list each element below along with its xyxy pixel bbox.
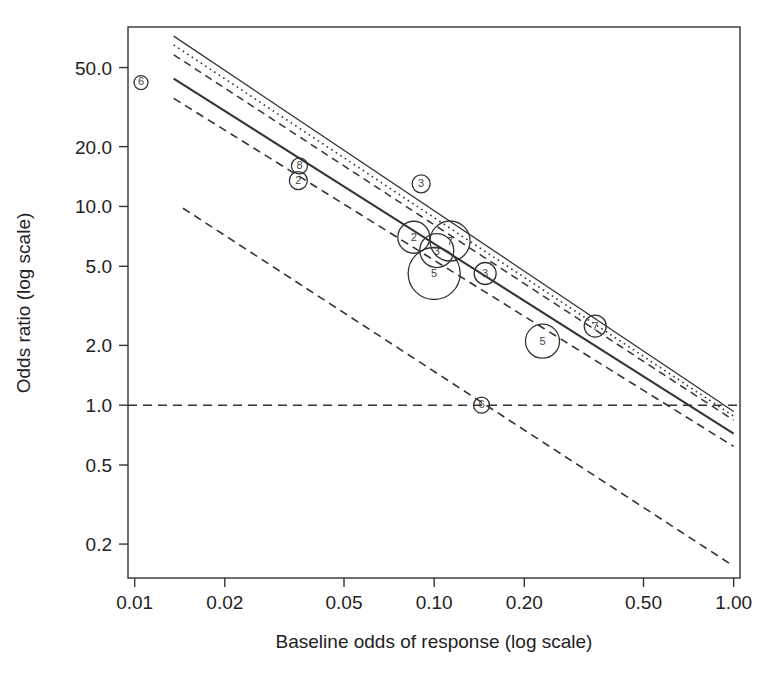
x-tick-label: 0.50 <box>625 592 662 613</box>
data-point-label: 3 <box>482 267 488 279</box>
y-tick-label: 5.0 <box>86 256 112 277</box>
figure-root: 0.010.020.050.100.200.501.00 0.20.51.02.… <box>0 0 766 675</box>
y-tick-label: 20.0 <box>75 137 112 158</box>
study-data-points: 682323753576 <box>134 75 606 413</box>
regression-line-upper-solid-thin <box>174 36 734 411</box>
data-point: 6 <box>134 75 148 89</box>
y-tick-label: 1.0 <box>86 395 112 416</box>
x-tick-label: 0.05 <box>326 592 363 613</box>
data-point-label: 3 <box>434 245 440 257</box>
data-point: 3 <box>474 262 496 284</box>
regression-lines <box>174 36 734 566</box>
data-point-label: 5 <box>431 267 437 279</box>
y-tick-label: 0.2 <box>86 534 112 555</box>
y-tick-label: 2.0 <box>86 335 112 356</box>
data-point-label: 6 <box>138 75 144 87</box>
data-point-label: 7 <box>592 320 598 332</box>
regression-line-outlier-regression <box>183 208 734 566</box>
x-tick-label: 0.10 <box>416 592 453 613</box>
x-tick-label: 0.20 <box>506 592 543 613</box>
data-point-label: 5 <box>539 335 545 347</box>
x-tick-label: 1.00 <box>715 592 752 613</box>
regression-line-dotted-band <box>174 45 734 416</box>
regression-line-dashed-lower <box>174 98 734 446</box>
x-axis-ticks: 0.010.020.050.100.200.501.00 <box>116 578 752 613</box>
y-tick-label: 50.0 <box>75 58 112 79</box>
x-axis-title: Baseline odds of response (log scale) <box>276 631 593 652</box>
data-point: 5 <box>525 324 559 358</box>
x-tick-label: 0.01 <box>116 592 153 613</box>
y-tick-label: 10.0 <box>75 196 112 217</box>
data-point-label: 6 <box>479 398 485 410</box>
data-point-label: 2 <box>295 174 301 186</box>
data-point-label: 3 <box>418 177 424 189</box>
data-point-label: 2 <box>411 231 417 243</box>
y-axis-ticks: 0.20.51.02.05.010.020.050.0 <box>75 58 128 556</box>
regression-line-dashed-upper <box>174 55 734 420</box>
plot-border <box>128 27 740 578</box>
chart-canvas: 0.010.020.050.100.200.501.00 0.20.51.02.… <box>0 0 766 675</box>
plot-frame <box>128 27 740 578</box>
x-tick-label: 0.02 <box>206 592 243 613</box>
y-tick-label: 0.5 <box>86 455 112 476</box>
data-point: 3 <box>412 175 430 193</box>
y-axis-title: Odds ratio (log scale) <box>13 213 34 394</box>
data-point: 7 <box>430 221 470 261</box>
data-point-label: 8 <box>296 159 302 171</box>
data-point-label: 7 <box>447 235 453 247</box>
